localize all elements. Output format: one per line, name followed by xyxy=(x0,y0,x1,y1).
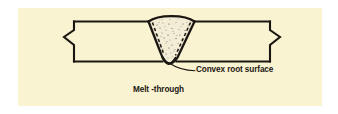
break-symbol-left xyxy=(64,22,74,62)
melt-through-diagram xyxy=(0,0,338,114)
break-symbol-right xyxy=(270,22,280,62)
figure-panel: Convex root surface Melt -through xyxy=(0,0,338,114)
leader-line-to-root xyxy=(170,63,196,71)
label-melt-through: Melt -through xyxy=(133,85,184,94)
label-convex-root-surface: Convex root surface xyxy=(196,65,273,74)
